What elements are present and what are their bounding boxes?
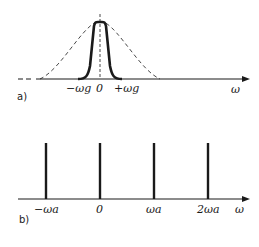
tick-label-minus-wg: −ωg xyxy=(66,83,91,94)
panel-b-graphic xyxy=(18,143,250,202)
tick-label-plus-wg: +ωg xyxy=(114,83,139,94)
tick-label-minus-wa: −ωa xyxy=(34,204,59,215)
axis-a-arrow-icon xyxy=(242,76,250,82)
axis-label-omega-a: ω xyxy=(231,84,240,95)
tick-label-2wa: 2ωa xyxy=(197,204,220,215)
tick-label-zero-a: 0 xyxy=(96,83,103,94)
tick-label-zero-b: 0 xyxy=(96,204,103,215)
axis-b-arrow-icon xyxy=(242,196,250,202)
tick-label-wa: ωa xyxy=(146,204,162,215)
panel-label-a: a) xyxy=(17,92,27,102)
panel-a-graphic xyxy=(18,14,250,82)
axis-label-omega-b: ω xyxy=(235,204,244,215)
panel-label-b: b) xyxy=(19,215,29,225)
